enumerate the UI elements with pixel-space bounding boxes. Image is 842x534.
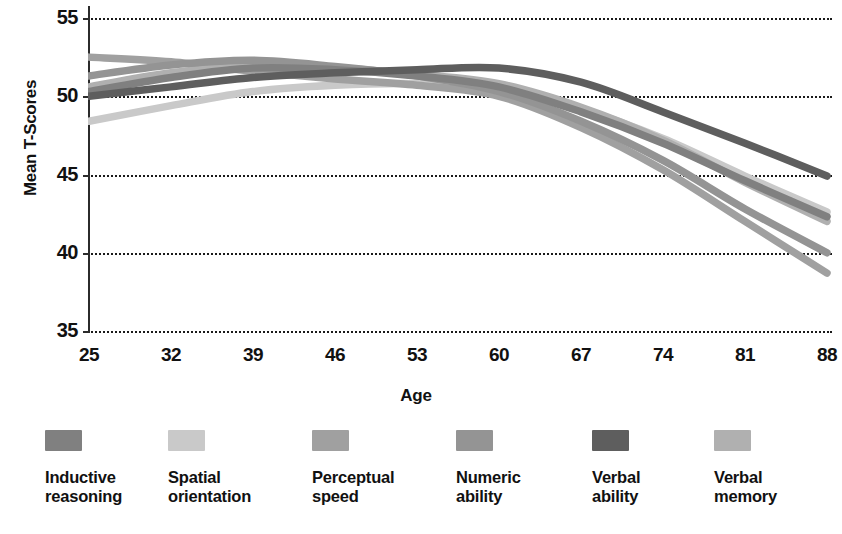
legend-item[interactable]: Verbal memory [714, 430, 842, 507]
y-tick-label: 45 [32, 164, 78, 184]
x-tick-label: 46 [307, 345, 363, 364]
x-tick-label: 88 [799, 345, 842, 364]
legend-swatch-icon [45, 430, 82, 451]
x-axis-tick-labels: 25323946536067748188 [88, 345, 842, 373]
y-tick-label: 55 [32, 7, 78, 27]
y-axis-tick-labels: 5550454035 [20, 0, 78, 340]
legend-label: Spatial orientation [168, 468, 298, 507]
y-tick-label: 35 [32, 320, 78, 340]
legend-label: Verbal ability [592, 468, 722, 507]
legend-swatch-icon [456, 430, 493, 451]
plot-area [88, 6, 832, 331]
legend-item[interactable]: Spatial orientation [168, 430, 298, 507]
x-tick-label: 67 [553, 345, 609, 364]
x-tick-label: 53 [389, 345, 445, 364]
legend-label: Numeric ability [456, 468, 586, 507]
x-tick-label: 81 [717, 345, 773, 364]
legend-swatch-icon [312, 430, 349, 451]
legend-label: Verbal memory [714, 468, 842, 507]
legend-swatch-icon [592, 430, 629, 451]
x-axis-title: Age [0, 386, 832, 406]
x-tick-label: 74 [635, 345, 691, 364]
legend-item[interactable]: Verbal ability [592, 430, 722, 507]
legend-item[interactable]: Inductive reasoning [45, 430, 175, 507]
legend-label: Inductive reasoning [45, 468, 175, 507]
x-tick-label: 25 [61, 345, 117, 364]
x-tick-label: 60 [471, 345, 527, 364]
legend-item[interactable]: Numeric ability [456, 430, 586, 507]
x-tick-label: 39 [225, 345, 281, 364]
legend-swatch-icon [168, 430, 205, 451]
y-tick-label: 40 [32, 242, 78, 262]
y-tick-label: 50 [32, 85, 78, 105]
legend-label: Perceptual speed [312, 468, 442, 507]
gridline [88, 331, 832, 333]
series-curves [88, 6, 832, 331]
legend-swatch-icon [714, 430, 751, 451]
legend-item[interactable]: Perceptual speed [312, 430, 442, 507]
x-tick-label: 32 [143, 345, 199, 364]
chart-legend: Inductive reasoningSpatial orientationPe… [0, 430, 832, 530]
y-axis-tick [83, 331, 90, 333]
